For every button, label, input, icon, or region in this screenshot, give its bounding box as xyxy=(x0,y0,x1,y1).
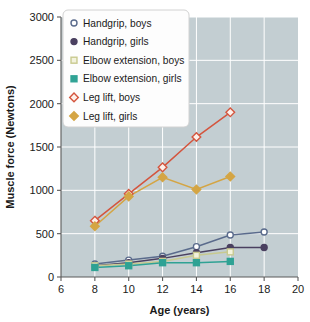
chart-legend: Handgrip, boysHandgrip, girlsElbow exten… xyxy=(63,10,189,127)
series-0-marker-3 xyxy=(193,244,199,250)
legend-marker-3 xyxy=(71,76,77,82)
series-0-marker-5 xyxy=(261,229,267,235)
x-tick-label-18: 18 xyxy=(258,283,270,295)
y-axis-tick-labels: 050010001500200025003000 xyxy=(30,11,54,283)
y-axis-title: Muscle force (Newtons) xyxy=(4,85,16,209)
x-tick-label-20: 20 xyxy=(292,283,304,295)
legend-label-5: Leg lift, girls xyxy=(83,111,137,122)
x-tick-label-12: 12 xyxy=(156,283,168,295)
y-tick-label-2000: 2000 xyxy=(30,98,54,110)
legend-label-0: Handgrip, boys xyxy=(83,18,152,29)
x-tick-label-16: 16 xyxy=(224,283,236,295)
series-1-marker-5 xyxy=(261,245,267,251)
series-3-marker-2 xyxy=(160,260,166,266)
chart-figure: 050010001500200025003000 68101214161820 … xyxy=(0,0,310,322)
legend-marker-0 xyxy=(71,20,77,26)
legend-label-4: Leg lift, boys xyxy=(83,92,140,103)
x-tick-label-6: 6 xyxy=(58,283,64,295)
series-0-marker-4 xyxy=(227,232,233,238)
legend-label-3: Elbow extension, girls xyxy=(83,73,182,84)
y-tick-label-0: 0 xyxy=(48,271,54,283)
x-tick-label-10: 10 xyxy=(123,283,135,295)
muscle-force-line-chart: 050010001500200025003000 68101214161820 … xyxy=(0,0,310,322)
series-3-marker-3 xyxy=(193,260,199,266)
series-3-marker-0 xyxy=(92,264,98,270)
legend-label-1: Handgrip, girls xyxy=(83,36,149,47)
legend-label-2: Elbow extension, boys xyxy=(83,55,184,66)
series-3-marker-4 xyxy=(227,258,233,264)
legend-marker-1 xyxy=(71,39,77,45)
y-tick-label-1500: 1500 xyxy=(30,141,54,153)
series-3-marker-1 xyxy=(126,263,132,269)
y-tick-label-3000: 3000 xyxy=(30,11,54,23)
y-tick-label-500: 500 xyxy=(36,228,54,240)
series-2-marker-3 xyxy=(193,252,199,258)
y-tick-label-2500: 2500 xyxy=(30,54,54,66)
series-2-marker-4 xyxy=(227,249,233,255)
y-tick-label-1000: 1000 xyxy=(30,184,54,196)
x-axis-title: Age (years) xyxy=(150,304,210,316)
x-axis-tick-labels: 68101214161820 xyxy=(58,283,304,295)
x-tick-label-14: 14 xyxy=(190,283,202,295)
x-tick-label-8: 8 xyxy=(92,283,98,295)
legend-marker-2 xyxy=(71,57,77,63)
